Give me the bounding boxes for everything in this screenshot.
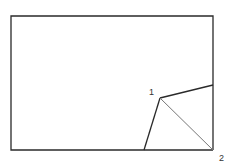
fold-edge-upper: [160, 85, 213, 98]
fold-crease-line: [160, 98, 213, 150]
fold-edge-lower: [144, 98, 160, 150]
rectangle-outline: [11, 16, 213, 150]
point-1-label: 1: [149, 87, 154, 97]
folded-rectangle-diagram: 1 2: [0, 0, 229, 168]
point-2-label: 2: [219, 153, 224, 163]
